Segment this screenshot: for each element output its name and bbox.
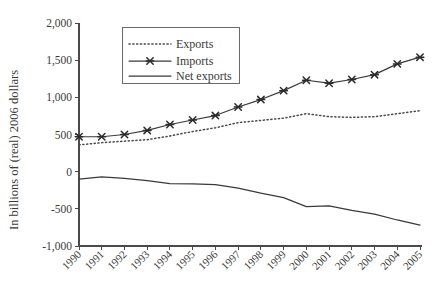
x-tick-label: 2003 (355, 248, 379, 272)
x-tick-label: 2004 (378, 248, 402, 272)
data-point-marker (121, 131, 129, 137)
data-point-marker (325, 80, 333, 86)
legend-label: Exports (176, 37, 214, 51)
data-point-marker (303, 77, 311, 83)
x-tick-label: 1997 (219, 248, 243, 272)
data-point-marker (143, 127, 151, 133)
data-point-marker (189, 117, 197, 123)
data-point-marker (98, 134, 106, 140)
data-point-marker (257, 96, 265, 102)
x-tick-label: 1995 (173, 248, 197, 272)
x-tick-label: 1998 (241, 248, 265, 272)
chart-legend: ExportsImportsNet exports (123, 28, 240, 84)
chart-container: In billions of (real) 2006 dollars 2,000… (0, 0, 441, 298)
x-tick-label: 1992 (105, 248, 129, 272)
y-tick-label: 2,000 (46, 17, 72, 30)
x-tick-label: 2005 (400, 248, 424, 272)
y-tick-label: -1,000 (42, 240, 72, 253)
x-tick-label: 1991 (82, 248, 106, 272)
data-point-marker (234, 104, 242, 110)
y-axis-title: In billions of (real) 2006 dollars (7, 70, 21, 230)
series-line-exports (79, 111, 420, 145)
y-tick-label: 1,000 (46, 91, 72, 104)
y-tick-label: -500 (51, 203, 72, 215)
legend-label: Net exports (176, 69, 232, 83)
series-line-net-exports (79, 177, 420, 225)
y-axis-ticks: 2,0001,5001,0005000-500-1,000 (42, 17, 79, 253)
y-tick-label: 0 (66, 166, 72, 178)
data-point-marker (212, 112, 220, 118)
data-point-marker (416, 54, 424, 60)
y-tick-label: 500 (55, 129, 73, 141)
x-tick-label: 1996 (196, 248, 220, 272)
line-chart: In billions of (real) 2006 dollars 2,000… (0, 0, 441, 298)
x-tick-label: 1994 (150, 248, 174, 272)
legend-label: Imports (176, 54, 214, 68)
data-point-marker (280, 87, 288, 93)
data-point-marker (371, 71, 379, 77)
x-tick-label: 1993 (128, 248, 152, 272)
data-point-marker (166, 121, 174, 127)
x-tick-label: 1999 (264, 248, 288, 272)
data-point-marker (348, 76, 356, 82)
x-tick-label: 2002 (332, 248, 356, 272)
x-axis-ticks: 1990199119921993199419951996199719981999… (59, 246, 424, 272)
x-tick-label: 2000 (287, 248, 311, 272)
y-tick-label: 1,500 (46, 54, 72, 67)
x-tick-label: 2001 (309, 248, 333, 272)
data-point-marker (393, 61, 401, 67)
